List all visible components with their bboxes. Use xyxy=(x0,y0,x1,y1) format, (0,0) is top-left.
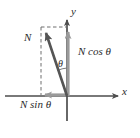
normal-force-vector xyxy=(46,33,67,96)
vector-decomposition-figure: y x N N cos θ N sin θ θ xyxy=(0,0,140,138)
n-cos-theta-label: N cos θ xyxy=(78,46,111,57)
n-sin-theta-label: N sin θ xyxy=(20,99,51,110)
normal-force-label: N xyxy=(24,32,31,43)
x-axis-label: x xyxy=(122,86,127,97)
y-axis-label: y xyxy=(71,6,76,17)
theta-angle-label: θ xyxy=(58,59,63,69)
figure-canvas xyxy=(0,0,140,138)
resultant-vector-group xyxy=(46,33,67,96)
